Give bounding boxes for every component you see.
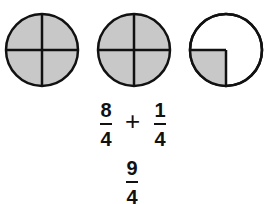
fraction-bar [126,181,138,183]
plus-operator: + [125,106,140,137]
fraction-circles [0,0,269,100]
fraction-bar [100,123,112,125]
numerator: 1 [154,100,165,120]
numerator: 9 [126,158,137,178]
denominator: 4 [154,129,165,149]
fraction-one-fourth: 1 4 [154,100,166,149]
fraction-eight-fourths: 8 4 [100,100,112,149]
circle-whole-1 [6,14,78,86]
fraction-bar [154,123,166,125]
denominator: 4 [126,187,137,204]
fraction-nine-fourths: 9 4 [126,158,138,204]
circle-whole-2 [98,14,170,86]
numerator: 8 [100,100,111,120]
denominator: 4 [100,129,111,149]
circle-quarter [190,14,262,86]
